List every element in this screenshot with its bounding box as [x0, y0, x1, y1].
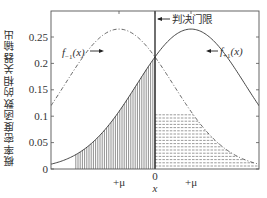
- y-tick-label: 0.2: [34, 57, 48, 69]
- x-tick-label-mu-right: +μ: [185, 176, 197, 188]
- plot-area: [29, 11, 267, 169]
- chart-svg: 00.050.10.150.20.25+μ0+μx判决门限f−1(x)f+1(x…: [0, 0, 267, 198]
- y-tick-label: 0.25: [29, 31, 49, 43]
- f-plus-1-label: f+1(x): [220, 45, 243, 60]
- y-axis-label: 概率密度函数的相关器输出: [2, 22, 16, 172]
- y-tick-label: 0: [43, 163, 49, 175]
- x-tick-label-zero: 0: [152, 170, 158, 182]
- y-tick-label: 0.1: [34, 110, 48, 122]
- y-tick-label: 0.15: [29, 83, 49, 95]
- x-axis-label: x: [152, 182, 158, 194]
- threshold-label: 判决门限: [172, 13, 213, 25]
- x-tick-label-mu-left: +μ: [113, 176, 125, 188]
- y-tick-label: 0.05: [29, 136, 49, 148]
